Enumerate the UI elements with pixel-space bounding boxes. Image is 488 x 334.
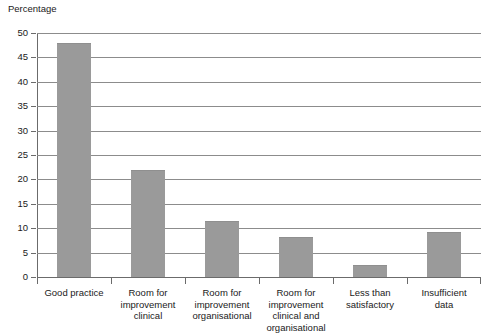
gridline [37, 179, 481, 180]
y-axis-label: 15 [17, 199, 28, 209]
x-axis-label: Less thansatisfactory [333, 287, 407, 310]
gridline [37, 228, 481, 229]
gridline [37, 33, 481, 34]
x-axis-label-line: data [407, 299, 481, 311]
x-axis-label: Insufficientdata [407, 287, 481, 310]
y-tick-mark [31, 57, 36, 58]
x-tick-mark [111, 278, 112, 284]
gridline [37, 82, 481, 83]
x-axis-label-line: Insufficient [407, 287, 481, 299]
y-tick-mark [31, 277, 36, 278]
bar [353, 265, 387, 277]
y-axis-label: 40 [17, 77, 28, 87]
x-axis-label-line: Good practice [37, 287, 111, 299]
y-axis-label: 50 [17, 28, 28, 38]
x-axis-label: Room forimprovementorganisational [185, 287, 259, 322]
gridline [37, 155, 481, 156]
x-axis-label: Room forimprovementclinical [111, 287, 185, 322]
x-tick-mark [407, 278, 408, 284]
bar [131, 170, 165, 277]
y-tick-mark [31, 253, 36, 254]
x-tick-mark [185, 278, 186, 284]
x-axis-label-line: organisational [259, 322, 333, 334]
x-axis-label-line: satisfactory [333, 299, 407, 311]
y-axis-label: 5 [23, 248, 28, 258]
x-axis-label-line: Room for [259, 287, 333, 299]
gridline [37, 131, 481, 132]
y-tick-mark [31, 179, 36, 180]
bar [57, 43, 91, 277]
bar-chart: Percentage 05101520253035404550 Good pra… [0, 0, 488, 334]
y-axis-label: 20 [17, 174, 28, 184]
gridline [37, 106, 481, 107]
y-axis-label: 45 [17, 52, 28, 62]
gridline [37, 204, 481, 205]
y-tick-mark [31, 131, 36, 132]
y-axis-label: 25 [17, 150, 28, 160]
x-axis-label-line: Room for [185, 287, 259, 299]
bar [205, 221, 239, 277]
y-axis-label: 10 [17, 223, 28, 233]
y-axis-label: 30 [17, 126, 28, 136]
x-axis-label-line: improvement [259, 299, 333, 311]
x-axis-label-line: improvement [185, 299, 259, 311]
y-tick-mark [31, 155, 36, 156]
y-tick-mark [31, 33, 36, 34]
x-axis-label: Room forimprovementclinical andorganisat… [259, 287, 333, 333]
y-tick-mark [31, 228, 36, 229]
gridline [37, 57, 481, 58]
x-axis-label-line: clinical [111, 310, 185, 322]
y-axis-title: Percentage [8, 3, 57, 15]
y-axis-label: 0 [23, 272, 28, 282]
x-axis-label-line: clinical and [259, 310, 333, 322]
x-axis-label-line: Room for [111, 287, 185, 299]
bar [427, 232, 461, 277]
x-axis-label: Good practice [37, 287, 111, 299]
x-tick-mark [333, 278, 334, 284]
x-tick-mark [37, 278, 38, 284]
x-axis-label-line: improvement [111, 299, 185, 311]
bar [279, 237, 313, 277]
y-axis-label: 35 [17, 101, 28, 111]
x-axis: Good practiceRoom forimprovementclinical… [37, 278, 481, 334]
x-tick-mark [259, 278, 260, 284]
gridline [37, 253, 481, 254]
y-tick-mark [31, 204, 36, 205]
plot-area: 05101520253035404550 [37, 33, 481, 277]
y-tick-mark [31, 82, 36, 83]
x-tick-mark [480, 278, 481, 284]
x-axis-label-line: organisational [185, 310, 259, 322]
x-axis-label-line: Less than [333, 287, 407, 299]
y-tick-mark [31, 106, 36, 107]
